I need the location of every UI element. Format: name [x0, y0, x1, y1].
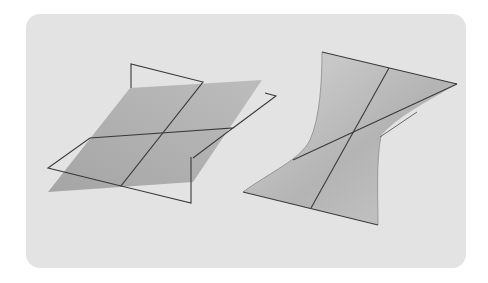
right-figure-saddle-surface — [243, 52, 457, 225]
shaded-plane — [48, 80, 262, 192]
figure-canvas — [0, 0, 488, 283]
left-figure-intersecting-planes — [48, 64, 276, 203]
